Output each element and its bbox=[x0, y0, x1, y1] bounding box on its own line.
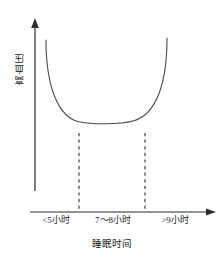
x-axis-title: 睡眠时间 bbox=[0, 238, 224, 250]
x-tick-label-over-9-hours: >9小时 bbox=[150, 215, 200, 226]
x-axis-arrowhead bbox=[206, 208, 216, 215]
chart-canvas bbox=[0, 0, 224, 269]
hypertension-sleep-chart: 高血压 <5小时 7～8小时 >9小时 睡眠时间 bbox=[0, 0, 224, 269]
u-curve-path bbox=[46, 38, 167, 124]
y-axis-title: 高血压 bbox=[14, 52, 28, 85]
y-axis-arrowhead bbox=[31, 18, 39, 28]
x-tick-label-7-to-8-hours: 7～8小时 bbox=[86, 215, 140, 226]
x-tick-label-under-5-hours: <5小时 bbox=[30, 215, 82, 226]
